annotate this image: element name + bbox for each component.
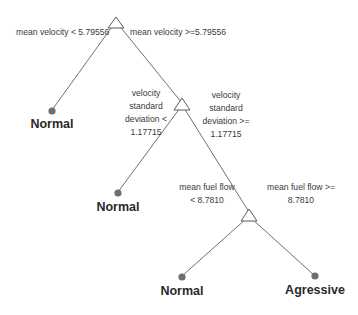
label-line: 8.7810: [261, 194, 341, 207]
label-line: standard: [198, 102, 254, 115]
leaf-label-agressive: Agressive: [285, 283, 345, 297]
edge-n3-leaf3: [182, 218, 247, 276]
edge-label-n3-right: mean fuel flow >= 8.7810: [261, 181, 341, 207]
leaf-dot-icon: [48, 107, 55, 114]
leaf-label-normal: Normal: [30, 117, 73, 131]
split-node-root-icon: [108, 17, 124, 28]
leaf-dot-icon: [178, 273, 185, 280]
split-node-fuel-flow-icon: [241, 209, 257, 221]
leaf-dot-icon: [114, 189, 121, 196]
leaf-label-normal: Normal: [160, 284, 203, 298]
leaf-dot-icon: [311, 272, 318, 279]
edge-n3-leaf4: [251, 218, 315, 276]
label-line: deviation >=: [198, 115, 254, 128]
edge-label-n3-left: mean fuel flow < 8.7810: [172, 181, 242, 207]
split-node-velocity-std-icon: [174, 98, 190, 110]
label-line: standard: [118, 100, 174, 113]
label-line: 1.17715: [118, 126, 174, 139]
label-line: velocity: [118, 87, 174, 100]
label-line: 1.17715: [198, 128, 254, 141]
label-line: mean fuel flow >=: [261, 181, 341, 194]
decision-tree-diagram: [0, 0, 358, 315]
label-line: velocity: [198, 89, 254, 102]
label-line: deviation <: [118, 113, 174, 126]
label-line: < 8.7810: [172, 194, 242, 207]
leaf-label-normal: Normal: [96, 200, 139, 214]
edge-label-n2-right: velocity standard deviation >= 1.17715: [198, 89, 254, 141]
label-line: mean fuel flow: [172, 181, 242, 194]
edge-label-n2-left: velocity standard deviation < 1.17715: [118, 87, 174, 139]
edge-label-root-left: mean velocity < 5.79556: [16, 26, 109, 39]
edge-label-root-right: mean velocity >=5.79556: [130, 26, 226, 39]
